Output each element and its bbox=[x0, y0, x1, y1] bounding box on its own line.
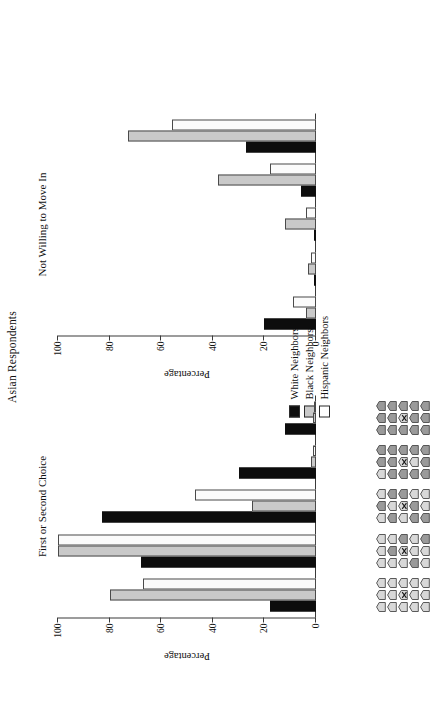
house-icon bbox=[387, 557, 397, 568]
bar bbox=[239, 467, 316, 478]
house-icon bbox=[409, 444, 419, 455]
y-tick bbox=[263, 335, 264, 340]
bar bbox=[306, 207, 316, 218]
bar bbox=[311, 456, 316, 467]
bar bbox=[102, 511, 316, 522]
house-icon bbox=[398, 512, 408, 523]
house-icon bbox=[409, 468, 419, 479]
house-icon bbox=[409, 412, 419, 423]
house-icon bbox=[387, 500, 397, 511]
house-icon bbox=[387, 400, 397, 411]
house-icon bbox=[376, 424, 386, 435]
bar bbox=[301, 185, 316, 196]
house-icon bbox=[420, 533, 430, 544]
y-tick bbox=[315, 335, 316, 340]
house-icon bbox=[387, 444, 397, 455]
bar bbox=[270, 163, 316, 174]
bar bbox=[141, 556, 316, 567]
house-icon bbox=[387, 488, 397, 499]
house-icon bbox=[409, 512, 419, 523]
panel-title-left: First or Second Choice bbox=[36, 395, 48, 617]
house-icon bbox=[398, 533, 408, 544]
bar bbox=[285, 218, 316, 229]
house-icon bbox=[398, 400, 408, 411]
y-tick bbox=[160, 335, 161, 340]
neighborhood-icon-strip bbox=[376, 395, 428, 617]
neighborhood-card bbox=[376, 528, 428, 572]
house-icon bbox=[376, 456, 386, 467]
house-icon bbox=[398, 444, 408, 455]
house-icon bbox=[376, 601, 386, 612]
y-tick bbox=[57, 617, 58, 622]
house-icon bbox=[398, 577, 408, 588]
house-icon bbox=[420, 444, 430, 455]
house-grid bbox=[376, 444, 428, 479]
bar bbox=[246, 141, 316, 152]
bar bbox=[195, 489, 316, 500]
house-icon bbox=[420, 488, 430, 499]
y-tick bbox=[57, 335, 58, 340]
y-tick bbox=[109, 335, 110, 340]
y-tick-label: 80 bbox=[106, 341, 115, 363]
house-icon bbox=[420, 412, 430, 423]
y-tick bbox=[212, 335, 213, 340]
house-icon bbox=[376, 412, 386, 423]
neighborhood-card bbox=[376, 395, 428, 439]
house-icon bbox=[420, 400, 430, 411]
panel-title-right: Not Willing to Move In bbox=[36, 113, 48, 335]
bar bbox=[311, 252, 316, 263]
own-home-house-icon bbox=[398, 456, 408, 467]
neighborhood-card bbox=[376, 573, 428, 617]
y-tick bbox=[263, 617, 264, 622]
figure-canvas: Asian Respondents White Neighbors Black … bbox=[0, 0, 434, 713]
own-home-house-icon bbox=[398, 500, 408, 511]
house-icon bbox=[409, 456, 419, 467]
bar bbox=[293, 296, 316, 307]
house-icon bbox=[409, 545, 419, 556]
house-icon bbox=[376, 533, 386, 544]
bar bbox=[252, 500, 317, 511]
y-tick-label: 20 bbox=[260, 341, 269, 363]
house-icon bbox=[409, 533, 419, 544]
y-tick-label: 40 bbox=[209, 341, 218, 363]
panel-first-or-second-choice: First or Second Choice 020406080100 Perc… bbox=[58, 395, 358, 617]
house-icon bbox=[387, 545, 397, 556]
house-icon bbox=[409, 557, 419, 568]
house-icon bbox=[376, 589, 386, 600]
house-icon bbox=[398, 424, 408, 435]
house-icon bbox=[409, 601, 419, 612]
house-icon bbox=[387, 512, 397, 523]
bar-group bbox=[58, 246, 316, 290]
y-tick-label: 100 bbox=[54, 341, 63, 363]
bar-group bbox=[58, 484, 316, 528]
bar bbox=[58, 534, 316, 545]
house-icon bbox=[420, 557, 430, 568]
y-tick-label: 100 bbox=[54, 623, 63, 645]
house-icon bbox=[420, 424, 430, 435]
y-tick-label: 20 bbox=[260, 623, 269, 645]
house-icon bbox=[420, 577, 430, 588]
own-home-house-icon bbox=[398, 412, 408, 423]
house-icon bbox=[387, 533, 397, 544]
house-icon bbox=[420, 589, 430, 600]
house-icon bbox=[420, 456, 430, 467]
house-icon bbox=[409, 500, 419, 511]
own-home-house-icon bbox=[398, 589, 408, 600]
y-tick bbox=[315, 617, 316, 622]
house-icon bbox=[398, 488, 408, 499]
neighborhood-card bbox=[376, 484, 428, 528]
bar-group bbox=[58, 573, 316, 617]
house-icon bbox=[409, 577, 419, 588]
y-axis-title-right: Percentage bbox=[164, 368, 210, 379]
house-icon bbox=[387, 412, 397, 423]
house-icon bbox=[398, 557, 408, 568]
house-icon bbox=[398, 601, 408, 612]
house-icon bbox=[376, 512, 386, 523]
y-tick-label: 80 bbox=[106, 623, 115, 645]
house-grid bbox=[376, 400, 428, 435]
y-tick-label: 40 bbox=[209, 623, 218, 645]
house-icon bbox=[420, 601, 430, 612]
house-icon bbox=[398, 468, 408, 479]
house-icon bbox=[409, 400, 419, 411]
house-icon bbox=[420, 500, 430, 511]
